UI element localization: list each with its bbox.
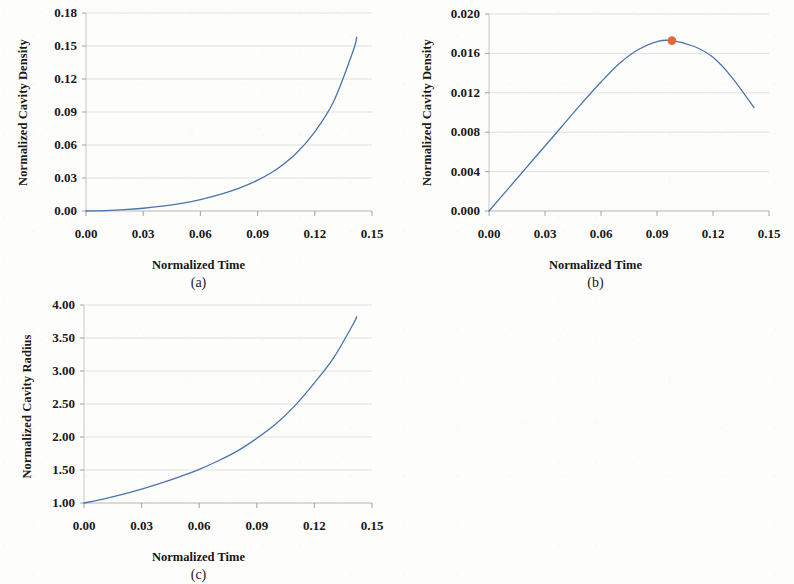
x-axis-tick-label: 0.15 [361,226,384,242]
x-axis-tick-label: 0.00 [478,226,501,242]
y-axis-tick-label: 0.03 [43,170,77,186]
panel-b-svg [397,0,794,292]
panel-c-tag: (c) [0,567,397,583]
panel-b-x-axis-title: Normalized Time [397,258,794,273]
panel-a: Normalized Cavity Density Normalized Tim… [0,0,397,292]
y-axis-tick-label: 0.004 [440,164,480,180]
y-axis-tick-label: 0.012 [440,85,480,101]
data-line-series-0 [489,40,754,211]
y-axis-tick-label: 0.09 [43,104,77,120]
y-axis-tick-label: 2.00 [41,429,75,445]
y-axis-tick-label: 2.50 [41,396,75,412]
x-axis-tick-label: 0.06 [188,518,211,534]
y-axis-tick-label: 0.06 [43,137,77,153]
data-line-series-0 [84,317,357,503]
y-axis-tick-label: 3.00 [41,363,75,379]
x-axis-tick-label: 0.06 [189,226,212,242]
y-axis-tick-label: 0.12 [43,71,77,87]
x-axis-tick-label: 0.00 [75,226,98,242]
panel-c-x-axis-title: Normalized Time [0,550,397,565]
y-axis-tick-label: 0.016 [440,45,480,61]
panel-c: Normalized Cavity Radius Normalized Time… [0,292,397,584]
y-axis-tick-label: 0.008 [440,124,480,140]
y-axis-tick-label: 4.00 [41,297,75,313]
x-axis-tick-label: 0.00 [73,518,96,534]
panel-b-tag: (b) [397,275,794,291]
peak-marker-dot [668,36,677,45]
x-axis-tick-label: 0.15 [758,226,781,242]
x-axis-tick-label: 0.06 [590,226,613,242]
x-axis-tick-label: 0.03 [534,226,557,242]
data-line-series-0 [86,37,357,211]
x-axis-tick-label: 0.09 [246,226,269,242]
x-axis-tick-label: 0.03 [130,518,153,534]
y-axis-tick-label: 0.00 [43,203,77,219]
figure-three-panel-plots: Normalized Cavity Density Normalized Tim… [0,0,794,584]
x-axis-tick-label: 0.12 [303,226,326,242]
x-axis-tick-label: 0.12 [702,226,725,242]
y-axis-tick-label: 0.000 [440,203,480,219]
y-axis-tick-label: 1.00 [41,495,75,511]
panel-b-plot: Normalized Cavity Density Normalized Tim… [397,0,794,292]
x-axis-tick-label: 0.03 [132,226,155,242]
panel-a-x-axis-title: Normalized Time [0,258,397,273]
y-axis-tick-label: 1.50 [41,462,75,478]
panel-c-plot: Normalized Cavity Radius Normalized Time… [0,292,397,584]
panel-a-tag: (a) [0,275,397,291]
y-axis-tick-label: 0.15 [43,38,77,54]
x-axis-tick-label: 0.15 [361,518,384,534]
x-axis-tick-label: 0.12 [303,518,326,534]
x-axis-tick-label: 0.09 [245,518,268,534]
panel-b: Normalized Cavity Density Normalized Tim… [397,0,794,292]
panel-a-plot: Normalized Cavity Density Normalized Tim… [0,0,397,292]
y-axis-tick-label: 0.020 [440,6,480,22]
y-axis-tick-label: 0.18 [43,5,77,21]
x-axis-tick-label: 0.09 [646,226,669,242]
y-axis-tick-label: 3.50 [41,330,75,346]
